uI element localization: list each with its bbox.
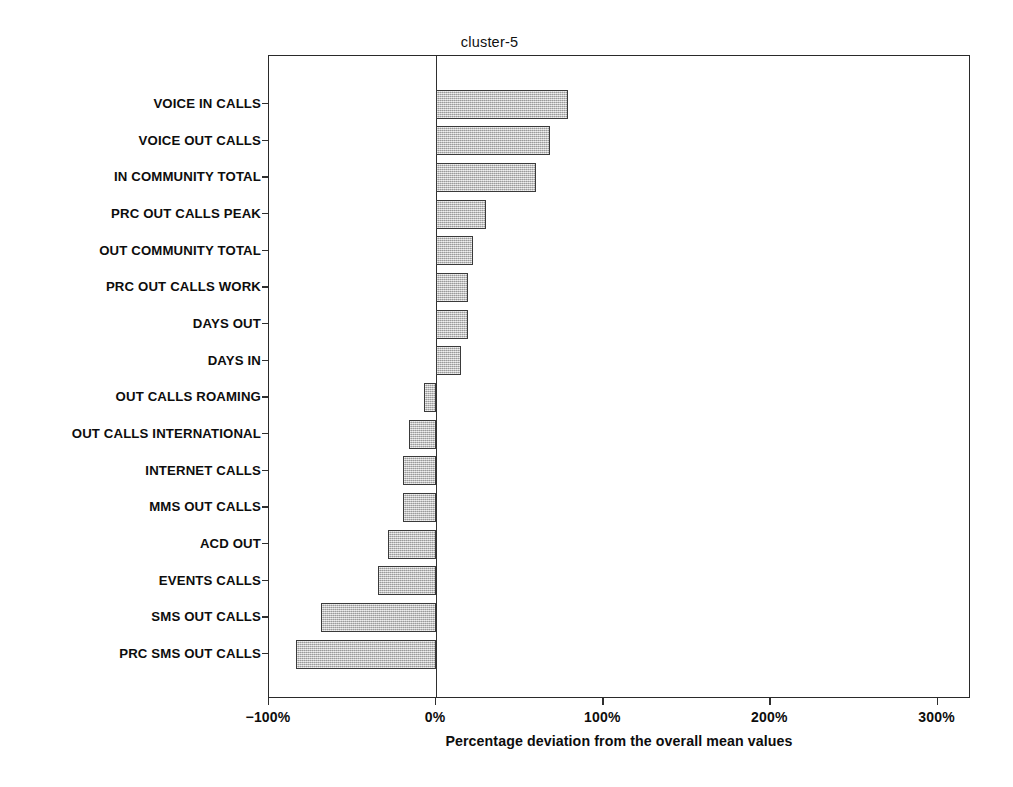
bar [403,456,436,485]
x-axis-tick-label: −100% [246,709,291,725]
x-axis-title: Percentage deviation from the overall me… [268,733,970,749]
bar [436,126,550,155]
y-axis-tick-label: DAYS OUT [193,316,261,331]
x-axis-tick-mark [268,698,269,705]
bar [436,236,473,265]
bar [409,420,436,449]
bar [424,383,436,412]
bar [436,163,536,192]
y-axis-tick-label: PRC OUT CALLS PEAK [111,206,261,221]
bar [403,493,436,522]
plot-area [268,55,970,698]
y-axis-tick-label: IN COMMUNITY TOTAL [114,169,261,184]
x-axis-tick-label: 300% [918,709,955,725]
y-axis-tick-label: VOICE OUT CALLS [139,132,261,147]
x-axis-tick-mark [602,698,603,705]
bar [436,346,461,375]
chart-figure: cluster-5 VOICE IN CALLSVOICE OUT CALLSI… [0,0,1013,787]
y-axis-tick-label: EVENTS CALLS [159,572,261,587]
y-axis-tick-label: SMS OUT CALLS [151,609,261,624]
bar [436,273,468,302]
y-axis-tick-label: OUT COMMUNITY TOTAL [99,242,261,257]
x-axis-tick-mark [435,698,436,705]
bar [388,530,436,559]
y-axis-tick-label: MMS OUT CALLS [149,499,261,514]
x-axis-tick-mark [937,698,938,705]
y-axis-labels: VOICE IN CALLSVOICE OUT CALLSIN COMMUNIT… [0,0,261,787]
bar [296,640,436,669]
bar [436,90,568,119]
y-axis-tick-label: OUT CALLS INTERNATIONAL [72,426,261,441]
y-axis-tick-label: VOICE IN CALLS [153,96,261,111]
y-axis-tick-label: DAYS IN [208,352,261,367]
y-axis-tick-label: PRC SMS OUT CALLS [119,646,261,661]
x-axis-tick-label: 0% [425,709,446,725]
chart-title: cluster-5 [268,34,711,50]
x-axis-tick-label: 200% [751,709,788,725]
y-axis-tick-label: ACD OUT [200,536,261,551]
x-axis-tick-mark [769,698,770,705]
bar [378,566,437,595]
y-axis-tick-label: PRC OUT CALLS WORK [106,279,261,294]
bar [436,310,468,339]
bar [321,603,436,632]
y-axis-tick-label: OUT CALLS ROAMING [116,389,261,404]
x-axis-tick-label: 100% [584,709,621,725]
bar [436,200,486,229]
y-axis-tick-label: INTERNET CALLS [145,462,261,477]
